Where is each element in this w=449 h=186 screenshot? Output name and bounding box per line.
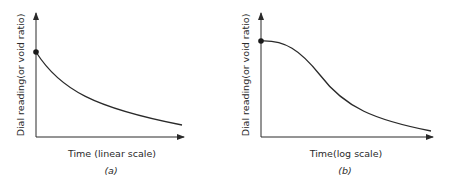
start-point	[33, 49, 39, 55]
decay-curve	[36, 52, 182, 125]
panel-caption: (a)	[104, 165, 117, 176]
figure: Dial reading(or void ratio) Time (linear…	[0, 0, 449, 186]
y-axis-label: Dial reading(or void ratio)	[240, 14, 251, 137]
x-axis-label: Time (linear scale)	[67, 148, 156, 159]
y-axis-label: Dial reading(or void ratio)	[15, 14, 26, 137]
s-curve	[261, 41, 431, 131]
start-point	[258, 38, 264, 44]
panel-a: Dial reading(or void ratio) Time (linear…	[15, 13, 184, 176]
panel-caption: (b)	[338, 165, 351, 176]
x-axis-label: Time(log scale)	[309, 148, 383, 159]
panel-b: Dial reading(or void ratio) Time(log sca…	[240, 13, 433, 176]
